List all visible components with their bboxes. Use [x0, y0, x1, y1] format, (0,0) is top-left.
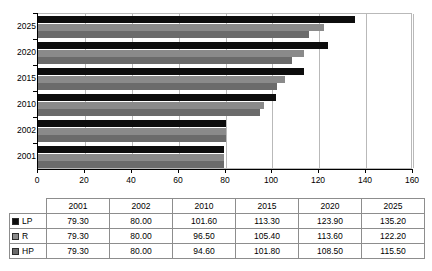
value-tick-140: [365, 169, 366, 173]
legend-swatch-r-icon: [12, 233, 19, 240]
bar-chart: 202520202015201020022001 020406080100120…: [0, 0, 432, 196]
category-label-2010: 2010: [2, 99, 36, 109]
table-cell-r-2001: 79.30: [47, 229, 110, 244]
bar-r-2020: [38, 50, 304, 57]
table-column-header-2010: 2010: [173, 199, 236, 214]
data-table: 200120022010201520202025 LP79.3080.00101…: [9, 198, 425, 259]
category-label-2001: 2001: [2, 151, 36, 161]
series-legend-cell-lp: LP: [10, 214, 47, 229]
table-column-header-2015: 2015: [236, 199, 299, 214]
bar-lp-2020: [38, 42, 328, 49]
value-tick-100: [271, 169, 272, 173]
value-tick-20: [84, 169, 85, 173]
bar-group-2015: [38, 66, 411, 92]
series-legend-cell-hp: HP: [10, 244, 47, 259]
bar-hp-2002: [38, 135, 226, 142]
table-cell-lp-2002: 80.00: [110, 214, 173, 229]
bar-group-2025: [38, 14, 411, 40]
category-label-2020: 2020: [2, 47, 36, 57]
table-cell-hp-2010: 94.60: [173, 244, 236, 259]
bar-hp-2015: [38, 83, 277, 90]
table-column-header-2001: 2001: [47, 199, 110, 214]
table-cell-r-2025: 122.20: [362, 229, 425, 244]
bar-lp-2025: [38, 16, 355, 23]
table-cell-r-2010: 96.50: [173, 229, 236, 244]
bar-lp-2015: [38, 68, 304, 75]
table-cell-r-2002: 80.00: [110, 229, 173, 244]
table-row: HP79.3080.0094.60101.80108.50115.50: [10, 244, 425, 259]
table-column-header-2025: 2025: [362, 199, 425, 214]
legend-swatch-lp-icon: [12, 218, 19, 225]
value-tick-label-40: 40: [126, 175, 135, 185]
bar-group-2001: [38, 144, 411, 170]
table-column-header-2020: 2020: [299, 199, 362, 214]
value-tick-label-120: 120: [311, 175, 325, 185]
value-axis-line: [37, 13, 38, 170]
value-tick-label-20: 20: [79, 175, 88, 185]
value-tick-label-80: 80: [220, 175, 229, 185]
table-cell-lp-2025: 135.20: [362, 214, 425, 229]
value-tick-label-0: 0: [35, 175, 40, 185]
bar-r-2015: [38, 76, 285, 83]
value-tick-60: [178, 169, 179, 173]
plot-area: [37, 13, 412, 169]
table-cell-hp-2015: 101.80: [236, 244, 299, 259]
value-tick-40: [131, 169, 132, 173]
series-legend-cell-r: R: [10, 229, 47, 244]
value-tick-label-100: 100: [264, 175, 278, 185]
value-tick-80: [225, 169, 226, 173]
category-axis-labels: 202520202015201020022001: [0, 13, 36, 169]
table-cell-hp-2001: 79.30: [47, 244, 110, 259]
bar-hp-2020: [38, 57, 292, 64]
table-cell-hp-2020: 108.50: [299, 244, 362, 259]
table-cell-lp-2010: 101.60: [173, 214, 236, 229]
gridline-160: [413, 14, 414, 168]
table-header-row: 200120022010201520202025: [10, 199, 425, 214]
bar-group-2020: [38, 40, 411, 66]
bar-hp-2001: [38, 161, 224, 168]
table-cell-r-2015: 105.40: [236, 229, 299, 244]
legend-swatch-hp-icon: [12, 248, 19, 255]
value-tick-label-60: 60: [173, 175, 182, 185]
category-label-2015: 2015: [2, 73, 36, 83]
bar-hp-2025: [38, 31, 309, 38]
bar-r-2025: [38, 24, 324, 31]
bar-r-2010: [38, 102, 264, 109]
table-row: LP79.3080.00101.60113.30123.90135.20: [10, 214, 425, 229]
value-tick-label-160: 160: [405, 175, 419, 185]
table-cell-lp-2015: 113.30: [236, 214, 299, 229]
bar-group-2002: [38, 118, 411, 144]
table-cell-hp-2025: 115.50: [362, 244, 425, 259]
table-cell-lp-2001: 79.30: [47, 214, 110, 229]
value-tick-160: [412, 169, 413, 173]
table-row: R79.3080.0096.50105.40113.60122.20: [10, 229, 425, 244]
bar-hp-2010: [38, 109, 260, 116]
plot-inner: [38, 14, 411, 168]
bar-lp-2002: [38, 120, 226, 127]
value-axis: 020406080100120140160: [37, 169, 413, 191]
table-cell-r-2020: 113.60: [299, 229, 362, 244]
category-label-2025: 2025: [2, 21, 36, 31]
table-cell-lp-2020: 123.90: [299, 214, 362, 229]
series-name-hp: HP: [22, 246, 34, 256]
table-body: LP79.3080.00101.60113.30123.90135.20R79.…: [10, 214, 425, 259]
series-name-r: R: [22, 231, 28, 241]
value-tick-0: [37, 169, 38, 173]
series-name-lp: LP: [22, 216, 32, 226]
table-cell-hp-2002: 80.00: [110, 244, 173, 259]
value-tick-label-140: 140: [358, 175, 372, 185]
value-tick-120: [318, 169, 319, 173]
bar-lp-2010: [38, 94, 276, 101]
bar-lp-2001: [38, 146, 224, 153]
table-corner-cell: [10, 199, 47, 214]
category-label-2002: 2002: [2, 125, 36, 135]
table-column-header-2002: 2002: [110, 199, 173, 214]
bar-r-2002: [38, 128, 226, 135]
bar-group-2010: [38, 92, 411, 118]
bar-r-2001: [38, 154, 224, 161]
